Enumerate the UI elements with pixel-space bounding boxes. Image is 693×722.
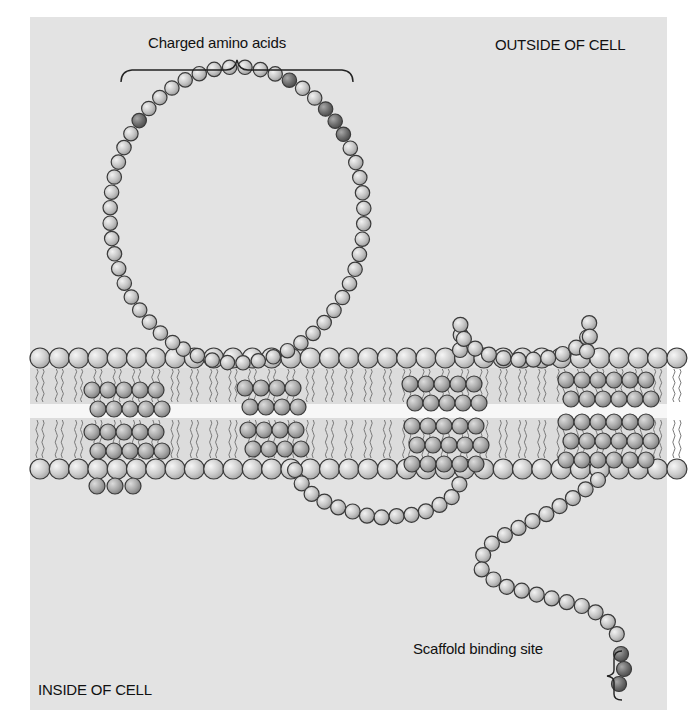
helix-residue — [293, 441, 309, 457]
helix-residue — [452, 418, 468, 434]
amino-acid-residue — [474, 562, 489, 577]
amino-acid-residue — [514, 583, 529, 598]
helix-residue — [148, 424, 164, 440]
helix-residue — [274, 399, 290, 415]
helix-residue — [425, 437, 441, 453]
helix-residue — [148, 382, 164, 398]
amino-acid-residue — [580, 344, 595, 359]
amino-acid-residue — [105, 231, 119, 245]
helix-residue — [579, 433, 595, 449]
helix-residue — [466, 376, 482, 392]
lipid-head — [358, 459, 378, 479]
helix-residue — [643, 391, 659, 407]
helix-residue — [402, 376, 418, 392]
amino-acid-residue — [133, 303, 147, 317]
amino-acid-residue — [559, 595, 574, 610]
outside-of-cell-label: OUTSIDE OF CELL — [495, 36, 625, 53]
helix-residue — [606, 414, 622, 430]
helix-residue — [116, 424, 132, 440]
helix-residue — [237, 380, 253, 396]
amino-acid-residue — [280, 344, 294, 358]
amino-acid-residue — [389, 509, 404, 524]
lipid-head — [532, 459, 552, 479]
amino-acid-residue — [541, 350, 556, 365]
helix-residue — [439, 395, 455, 411]
amino-acid-residue — [107, 170, 121, 184]
amino-acid-residue — [353, 170, 367, 184]
amino-acid-residue — [404, 507, 419, 522]
amino-acid-residue — [336, 127, 350, 141]
lipid-head — [262, 459, 282, 479]
helix-residue — [622, 414, 638, 430]
amino-acid-residue — [117, 140, 131, 154]
helix-residue — [606, 372, 622, 388]
lipid-head — [184, 459, 204, 479]
helix-residue — [116, 382, 132, 398]
lipid-head — [204, 459, 224, 479]
helix-residue — [434, 376, 450, 392]
helix-residue — [418, 376, 434, 392]
amino-acid-residue — [124, 127, 138, 141]
amino-acid-residue — [360, 508, 375, 523]
amino-acid-residue — [552, 499, 567, 514]
helix-residue — [154, 401, 170, 417]
helix-residue — [574, 372, 590, 388]
helix-residue — [84, 424, 100, 440]
helix-residue — [277, 441, 293, 457]
helix-residue — [100, 424, 116, 440]
amino-acid-residue — [107, 247, 121, 261]
lipid-head — [300, 348, 320, 368]
amino-acid-residue — [591, 473, 606, 488]
amino-acid-residue — [468, 341, 483, 356]
helix-residue — [590, 452, 606, 468]
amino-acid-residue — [295, 81, 309, 95]
lipid-head — [30, 459, 50, 479]
helix-residue — [288, 422, 304, 438]
helix-residue — [245, 441, 261, 457]
helix-residue — [563, 391, 579, 407]
helix-residue — [441, 437, 457, 453]
amino-acid-residue — [565, 491, 580, 506]
charged-amino-acids-bracket — [121, 60, 353, 82]
lipid-head — [107, 348, 127, 368]
amino-acid-residue — [104, 185, 118, 199]
amino-acid-residue — [251, 354, 265, 368]
helix-residue — [132, 424, 148, 440]
lipid-head — [69, 459, 89, 479]
amino-acid-residue — [103, 216, 117, 230]
helix-residue — [90, 443, 106, 459]
amino-acid-residue — [348, 262, 362, 276]
lipid-head — [30, 348, 50, 368]
amino-acid-residue — [352, 247, 366, 261]
amino-acid-residue — [496, 351, 511, 366]
lipid-head — [49, 348, 69, 368]
amino-acid-residue — [205, 353, 219, 367]
helix-residue — [106, 443, 122, 459]
lipid-head — [146, 459, 166, 479]
amino-acid-residue — [511, 520, 526, 535]
amino-acid-residue — [294, 336, 308, 350]
amino-acid-residue — [355, 186, 369, 200]
helix-residue — [285, 380, 301, 396]
lipid-head — [358, 348, 378, 368]
amino-acid-residue — [578, 482, 593, 497]
amino-acid-residue — [165, 335, 179, 349]
amino-acid-residue — [349, 155, 363, 169]
amino-acid-residue — [318, 102, 332, 116]
helix-residue — [138, 443, 154, 459]
lipid-head — [88, 348, 108, 368]
lipid-head — [146, 348, 166, 368]
amino-acid-residue — [357, 217, 371, 231]
amino-acid-residue — [582, 316, 597, 331]
helix-residue — [606, 452, 622, 468]
scaffold-binding-residue — [617, 662, 632, 677]
helix-residue — [579, 391, 595, 407]
lipid-head — [667, 459, 687, 479]
amino-acid-residue — [588, 605, 603, 620]
helix-residue — [404, 456, 420, 472]
helix-residue — [107, 478, 123, 494]
helix-residue — [154, 443, 170, 459]
helix-residue — [622, 372, 638, 388]
helix-residue — [122, 443, 138, 459]
amino-acid-residue — [220, 355, 234, 369]
